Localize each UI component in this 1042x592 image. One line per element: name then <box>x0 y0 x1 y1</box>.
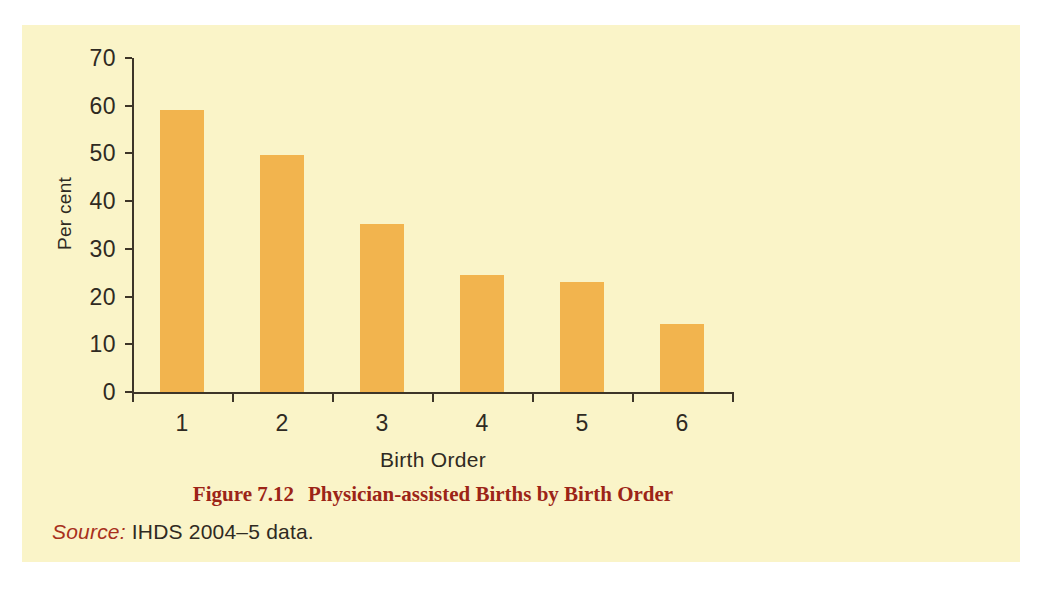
y-axis-tick <box>125 343 132 345</box>
x-axis-tick <box>432 394 434 402</box>
y-axis-tick-label: 30 <box>89 235 116 262</box>
bar <box>160 110 204 392</box>
x-axis-tick-label: 4 <box>476 410 489 437</box>
y-axis-tick-label: 10 <box>89 331 116 358</box>
source-label: Source: <box>52 520 126 543</box>
y-axis-tick-label: 70 <box>89 45 116 72</box>
y-axis-tick <box>125 391 132 393</box>
bar <box>260 155 304 392</box>
chart-plot-area: 010203040506070 123456 <box>132 58 732 392</box>
bar <box>560 282 604 392</box>
y-axis-tick-label: 50 <box>89 140 116 167</box>
y-axis-tick-label: 20 <box>89 283 116 310</box>
source-line: Source: IHDS 2004–5 data. <box>52 520 314 544</box>
y-axis-tick <box>125 296 132 298</box>
x-axis-title: Birth Order <box>132 448 734 472</box>
y-axis-tick <box>125 248 132 250</box>
figure-caption: Figure 7.12Physician-assisted Births by … <box>132 482 734 507</box>
figure-panel: 010203040506070 123456 Per cent Birth Or… <box>22 25 1020 562</box>
figure-caption-number: Figure 7.12 <box>193 482 294 506</box>
bar <box>360 224 404 392</box>
y-axis-tick-label: 40 <box>89 188 116 215</box>
x-axis-tick-label: 5 <box>576 410 589 437</box>
x-axis-tick-label: 3 <box>376 410 389 437</box>
x-axis-tick-label: 6 <box>676 410 689 437</box>
x-axis-tick <box>332 394 334 402</box>
y-axis-tick <box>125 105 132 107</box>
x-axis-tick <box>232 394 234 402</box>
y-axis-tick <box>125 200 132 202</box>
x-axis-tick <box>132 394 134 402</box>
x-axis-tick-label: 2 <box>276 410 289 437</box>
source-text: IHDS 2004–5 data. <box>126 520 314 543</box>
y-axis-tick <box>125 57 132 59</box>
bar <box>460 275 504 392</box>
x-axis-tick-label: 1 <box>176 410 189 437</box>
y-axis-title: Per cent <box>54 177 76 250</box>
y-axis-tick <box>125 152 132 154</box>
x-axis-tick <box>732 394 734 402</box>
figure-caption-title: Physician-assisted Births by Birth Order <box>308 482 673 506</box>
x-axis-tick <box>632 394 634 402</box>
y-axis-tick-label: 60 <box>89 92 116 119</box>
bar <box>660 324 704 392</box>
y-axis-line <box>132 58 134 392</box>
y-axis-tick-label: 0 <box>103 379 116 406</box>
x-axis-tick <box>532 394 534 402</box>
